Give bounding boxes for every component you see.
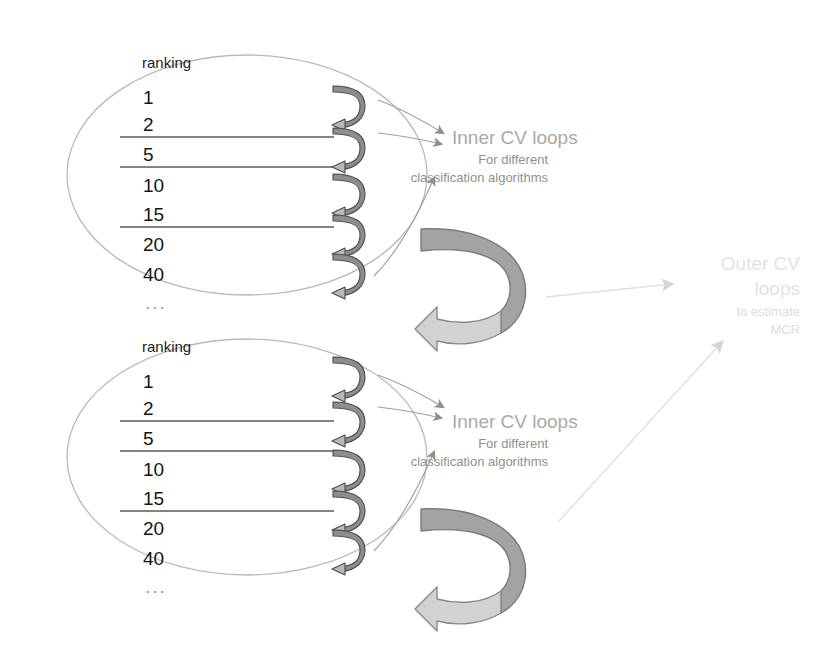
outer-label-sub-line1: to estimate — [736, 304, 800, 319]
inner-label-title-bottom: Inner CV loops — [452, 411, 578, 432]
loop-arrow-5-bottom — [332, 530, 365, 575]
rank-value-5-top: 5 — [143, 144, 154, 165]
block-bottom: ranking 1 2 5 10 15 20 40 ... — [67, 338, 578, 631]
rank-value-20-top: 20 — [143, 234, 164, 255]
rank-value-40-top: 40 — [143, 264, 164, 285]
rank-value-20-bottom: 20 — [143, 518, 164, 539]
outer-pointer-upper — [546, 284, 672, 297]
rank-value-2-bottom: 2 — [143, 398, 154, 419]
nested-cv-diagram: ranking 1 2 5 10 15 20 40 ... — [0, 0, 830, 660]
ranking-header-top: ranking — [142, 54, 191, 71]
loop-arrow-3-top — [332, 174, 365, 219]
rank-value-40-bottom: 40 — [143, 548, 164, 569]
outer-label-title-line1: Outer CV — [721, 253, 801, 274]
rank-value-10-top: 10 — [143, 175, 164, 196]
outer-cv-group: Outer CV loops to estimate MCR — [546, 253, 800, 522]
ellipse-outline-top — [67, 55, 427, 295]
diagram-canvas: ranking 1 2 5 10 15 20 40 ... — [0, 0, 830, 660]
outer-label-sub-line2: MCR — [770, 322, 800, 337]
inner-pointer-2-top — [378, 133, 441, 144]
inner-pointer-1-bottom — [378, 375, 443, 407]
big-curved-arrow-top — [415, 229, 526, 351]
loop-arrow-1-top — [332, 86, 365, 131]
loop-arrow-2-bottom — [332, 402, 365, 447]
rank-value-2-top: 2 — [143, 114, 154, 135]
ellipse-outline-bottom — [67, 339, 427, 575]
rank-value-10-bottom: 10 — [143, 459, 164, 480]
loop-arrow-4-bottom — [332, 491, 365, 536]
loop-arrow-1-bottom — [332, 357, 365, 402]
rank-ellipsis-top: ... — [145, 292, 167, 313]
rank-value-1-bottom: 1 — [143, 371, 154, 392]
big-curved-arrow-bottom — [415, 509, 526, 631]
loop-arrow-3-bottom — [332, 450, 365, 495]
loop-arrow-5-top — [332, 254, 365, 299]
inner-pointer-1-top — [378, 100, 443, 133]
inner-label-line2-top: classification algorithms — [411, 170, 549, 185]
inner-label-title-top: Inner CV loops — [452, 127, 578, 148]
loop-arrow-2-top — [332, 128, 365, 173]
inner-label-line1-top: For different — [478, 152, 548, 167]
outer-pointer-lower — [558, 342, 722, 522]
loop-arrow-4-top — [332, 215, 365, 260]
inner-pointer-2-bottom — [378, 407, 441, 418]
inner-label-line2-bottom: classification algorithms — [411, 454, 549, 469]
ranking-header-bottom: ranking — [142, 338, 191, 355]
block-top: ranking 1 2 5 10 15 20 40 ... — [67, 54, 578, 351]
rank-value-15-top: 15 — [143, 204, 164, 225]
inner-label-line1-bottom: For different — [478, 436, 548, 451]
rank-value-15-bottom: 15 — [143, 488, 164, 509]
outer-label-title-line2: loops — [755, 278, 800, 299]
rank-value-1-top: 1 — [143, 87, 154, 108]
rank-ellipsis-bottom: ... — [145, 576, 167, 597]
rank-value-5-bottom: 5 — [143, 428, 154, 449]
